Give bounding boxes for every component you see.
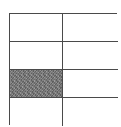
grid-cell-r4-c1 xyxy=(10,98,63,126)
grid-cell-r3-c2 xyxy=(63,70,118,98)
grid-cell-r2-c2 xyxy=(63,42,118,70)
grid-cell-r3-c1-shaded xyxy=(10,70,63,98)
grid-cell-r1-c2 xyxy=(63,14,118,42)
grid-cell-r4-c2 xyxy=(63,98,118,126)
grid-cell-r2-c1 xyxy=(10,42,63,70)
grid-cell-r1-c1 xyxy=(10,14,63,42)
grid-diagram xyxy=(9,13,117,125)
